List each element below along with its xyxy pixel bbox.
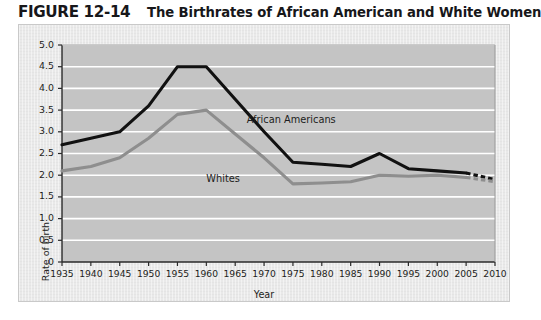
figure-caption: The Birthrates of African American and W… [147, 5, 541, 20]
figure-title: FIGURE 12-14The Birthrates of African Am… [18, 2, 518, 24]
panel-texture [19, 25, 509, 301]
figure-number: FIGURE 12-14 [18, 2, 130, 21]
figure-panel [18, 24, 510, 302]
